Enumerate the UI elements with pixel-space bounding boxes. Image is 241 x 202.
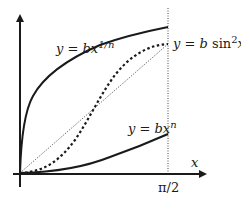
linear-dotted-line <box>20 44 168 173</box>
label-sine: y = b sin2x <box>172 34 241 51</box>
label-power: y = bxn <box>127 119 177 136</box>
label-root: y = bx1/n <box>55 39 114 56</box>
curve-power <box>20 134 168 173</box>
x-axis-label: x <box>191 155 199 170</box>
x-tick-pi-over-2: π/2 <box>158 180 179 195</box>
function-diagram: y = bx1/n y = b sin2x y = bxn x π/2 <box>0 0 241 202</box>
